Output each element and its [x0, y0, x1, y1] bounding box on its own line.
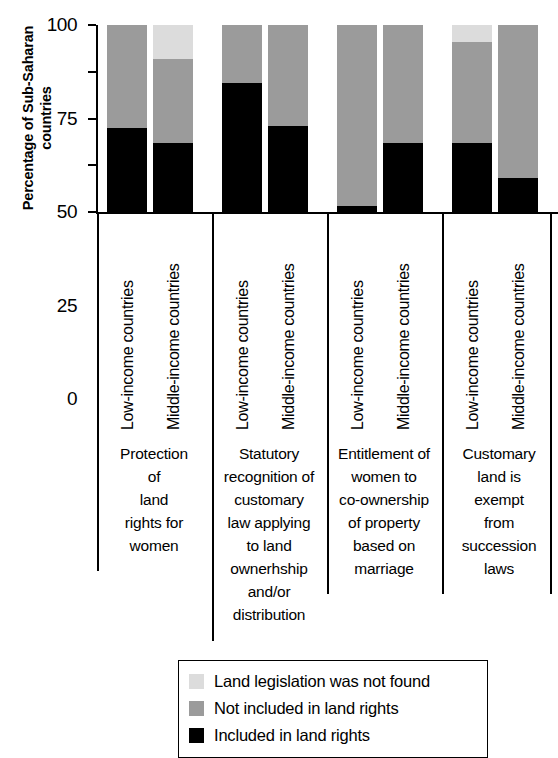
caption-line: ownerhship — [214, 557, 324, 580]
category-label: Low-income countries — [120, 280, 136, 430]
y-tick-100: 100 — [88, 24, 96, 26]
group-divider — [97, 214, 99, 436]
caption-line: exempt — [444, 488, 554, 511]
caption-line: distribution — [214, 603, 324, 626]
category-label: Low-income countries — [465, 280, 481, 430]
bar-group — [449, 25, 557, 212]
caption-line: to land — [214, 534, 324, 557]
caption-line: co-ownership — [329, 488, 439, 511]
group-divider — [442, 214, 444, 436]
bar-segment-not-found — [153, 25, 193, 59]
category-label: Middle-income countries — [511, 263, 527, 430]
group-divider — [327, 214, 329, 436]
bar-group — [334, 25, 442, 212]
legend-swatch-icon — [189, 728, 204, 743]
caption-line: women — [99, 534, 209, 557]
caption-line: Statutory — [214, 442, 324, 465]
caption-line: land — [99, 488, 209, 511]
caption-line: and/or — [214, 580, 324, 603]
y-tick-label-0: 0 — [67, 389, 77, 408]
y-tick-label-25: 25 — [57, 295, 77, 314]
category-label: Low-income countries — [350, 280, 366, 430]
caption-divider — [212, 436, 214, 641]
bar-segment-included — [498, 178, 538, 212]
caption-line: laws — [444, 557, 554, 580]
bar-segment-not-included — [222, 25, 262, 83]
caption-divider — [442, 436, 444, 594]
category-labels: Low-income countriesMiddle-income countr… — [96, 214, 558, 436]
stacked-bar[interactable] — [107, 25, 147, 212]
bar-group — [104, 25, 212, 212]
bar-segment-not-found — [452, 25, 492, 42]
legend-item[interactable]: Land legislation was not found — [189, 668, 477, 695]
caption-line: marriage — [329, 557, 439, 580]
caption-line: of — [99, 465, 209, 488]
plot-area: 0255075100 — [96, 25, 558, 212]
caption-line: of property — [329, 511, 439, 534]
caption-line: based on — [329, 534, 439, 557]
group-caption: Protectionoflandrights forwomen — [99, 436, 209, 557]
y-tick-label-50: 50 — [57, 202, 77, 221]
caption-line: Protection — [99, 442, 209, 465]
caption-line: Entitlement of — [329, 442, 439, 465]
group-caption: Entitlement ofwomen toco-ownershipof pro… — [329, 436, 439, 580]
category-label: Middle-income countries — [166, 263, 182, 430]
bar-segment-included — [268, 126, 308, 212]
caption-line: Customary — [444, 442, 554, 465]
category-label: Middle-income countries — [396, 263, 412, 430]
caption-line: law applying — [214, 511, 324, 534]
legend-label: Included in land rights — [214, 727, 370, 744]
category-label: Low-income countries — [235, 280, 251, 430]
chart-legend: Land legislation was not foundNot includ… — [178, 660, 488, 758]
bar-segment-included — [153, 143, 193, 212]
group-caption: Statutoryrecognition ofcustomarylaw appl… — [214, 436, 324, 626]
bar-segment-included — [107, 128, 147, 212]
bar-group — [219, 25, 327, 212]
caption-line: rights for — [99, 511, 209, 534]
bar-segment-not-included — [337, 25, 377, 206]
legend-label: Not included in land rights — [214, 700, 398, 717]
bar-segment-not-included — [268, 25, 308, 126]
y-tick-label-75: 75 — [57, 108, 77, 127]
group-divider — [550, 214, 552, 436]
y-tick-75: 75 — [88, 71, 96, 73]
group-divider — [212, 214, 214, 436]
caption-line: customary — [214, 488, 324, 511]
y-axis-line — [96, 25, 98, 212]
bar-segment-not-included — [153, 59, 193, 143]
bar-segment-included — [452, 143, 492, 212]
bar-segment-not-included — [498, 25, 538, 178]
legend-item[interactable]: Included in land rights — [189, 722, 477, 749]
y-tick-label-100: 100 — [47, 15, 77, 34]
caption-line: recognition of — [214, 465, 324, 488]
y-axis-title: Percentage of Sub-Saharan countries — [19, 3, 55, 233]
legend-item[interactable]: Not included in land rights — [189, 695, 477, 722]
caption-line: from — [444, 511, 554, 534]
stacked-bar[interactable] — [498, 25, 538, 212]
y-tick-50: 50 — [88, 118, 96, 120]
bar-segment-included — [222, 83, 262, 212]
caption-divider — [97, 436, 99, 571]
stacked-bar[interactable] — [337, 25, 377, 212]
caption-line: land is — [444, 465, 554, 488]
y-tick-25: 25 — [88, 164, 96, 166]
caption-divider — [327, 436, 329, 594]
stacked-bar[interactable] — [383, 25, 423, 212]
stacked-bar[interactable] — [153, 25, 193, 212]
stacked-bar[interactable] — [222, 25, 262, 212]
legend-swatch-icon — [189, 701, 204, 716]
caption-line: women to — [329, 465, 439, 488]
bar-segment-not-included — [452, 42, 492, 143]
legend-label: Land legislation was not found — [214, 673, 430, 690]
stacked-bar[interactable] — [452, 25, 492, 212]
caption-line: succession — [444, 534, 554, 557]
bar-segment-included — [383, 143, 423, 212]
y-tick-0: 0 — [88, 211, 96, 213]
group-captions: Protectionoflandrights forwomenStatutory… — [96, 436, 558, 646]
stacked-bar[interactable] — [268, 25, 308, 212]
bar-segment-not-included — [383, 25, 423, 143]
category-label: Middle-income countries — [281, 263, 297, 430]
bar-segment-not-included — [107, 25, 147, 128]
legend-swatch-icon — [189, 674, 204, 689]
group-caption: Customaryland isexemptfromsuccessionlaws — [444, 436, 554, 580]
